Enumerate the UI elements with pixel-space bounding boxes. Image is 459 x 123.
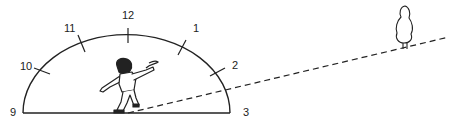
person-head-icon bbox=[117, 58, 132, 73]
tree-icon bbox=[396, 6, 412, 49]
person-foot-right bbox=[133, 104, 139, 107]
person-foot-left bbox=[114, 110, 124, 113]
person-legs bbox=[117, 90, 139, 111]
clock-sightline-diagram: 12 11 1 10 2 9 3 bbox=[0, 0, 459, 123]
tree-foliage bbox=[396, 6, 412, 43]
person-throwing-boomerang bbox=[100, 58, 154, 113]
label-12: 12 bbox=[122, 9, 134, 21]
label-11: 11 bbox=[64, 22, 75, 34]
sightline-dashed bbox=[128, 37, 449, 113]
label-2: 2 bbox=[232, 59, 238, 71]
label-1: 1 bbox=[193, 22, 199, 34]
diagram-canvas: 12 11 1 10 2 9 3 bbox=[0, 0, 459, 123]
tick-10 bbox=[34, 68, 50, 74]
person-throwing-arm bbox=[132, 67, 154, 80]
label-3: 3 bbox=[243, 106, 249, 118]
label-9: 9 bbox=[10, 106, 16, 118]
person-back-arm bbox=[100, 76, 120, 92]
label-10: 10 bbox=[20, 60, 32, 72]
